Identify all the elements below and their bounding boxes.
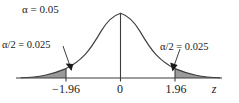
axis-tick-label-center: 0 (108, 83, 132, 95)
axis-tick-label-positive-critical: 1.96 (156, 83, 196, 95)
left-tail-area-label: α/2 = 0.025 (2, 40, 50, 51)
right-rejection-region-fill (175, 69, 220, 78)
left-tail-leader-line (63, 46, 70, 66)
significance-level-label: α = 0.05 (22, 4, 59, 15)
axis-tick-label-negative-critical: −1.96 (42, 83, 90, 95)
left-tail-arrowhead (66, 63, 74, 71)
right-tail-area-label: α/2 = 0.025 (160, 42, 208, 53)
normal-distribution-figure: α = 0.05 α/2 = 0.025 α/2 = 0.025 −1.96 0… (0, 0, 239, 103)
left-rejection-region-fill (21, 69, 66, 78)
axis-variable-label: z (206, 83, 222, 95)
